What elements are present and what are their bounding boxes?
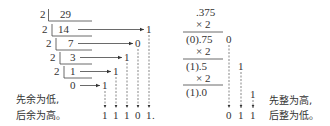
multiplier: × 2 [196,45,210,57]
divisor: 2 [50,51,56,63]
integer-division-section: 2 29 2 14 1 2 7 0 2 3 1 2 1 1 0 1 [16,8,155,121]
remainder: 1 [102,79,108,91]
divisor: 2 [40,8,46,20]
divisor: 2 [46,37,52,49]
integer-bit: 0 [226,33,232,45]
fraction-value: .375 [196,6,216,18]
note-line-2: 后整为低。 [269,109,319,121]
quotient: 7 [68,37,74,49]
result-digit: 1 [238,109,244,121]
note-line-2: 后余为高。 [16,109,66,121]
remainder: 1 [124,51,130,63]
quotient: 3 [70,51,76,63]
result-digit: 1 [102,109,108,121]
result-digit: 1 [250,109,256,121]
dividend: 29 [60,8,72,20]
fraction-multiplication-section: .375 × 2 (0).75 0 × 2 (1).5 1 × 2 (1).0 … [183,6,319,121]
diagram-svg: 2 29 2 14 1 2 7 0 2 3 1 2 1 1 0 1 [0,0,330,126]
remainder: 0 [135,37,141,49]
quotient: 0 [70,79,76,91]
integer-bit: 1 [250,88,256,100]
quotient: 1 [70,65,76,77]
result-digit: 1 [124,109,130,121]
note-line-1: 先余为低, [16,93,59,105]
note-line-1: 先整为高, [269,94,312,106]
remainder: 1 [146,23,152,35]
result-point: . [152,109,155,121]
result-digit: 1 [146,109,152,121]
divisor: 2 [54,65,60,77]
result-digit: 0 [226,109,232,121]
remainder: 1 [113,65,119,77]
binary-conversion-diagram: 2 29 2 14 1 2 7 0 2 3 1 2 1 1 0 1 [0,0,330,126]
integer-bit: 1 [238,60,244,72]
quotient: 14 [58,23,70,35]
product: (1).0 [186,86,208,99]
multiplier: × 2 [196,18,210,30]
multiplier: × 2 [196,72,210,84]
result-digit: 1 [113,109,119,121]
divisor: 2 [42,23,48,35]
result-digit: 0 [135,109,141,121]
